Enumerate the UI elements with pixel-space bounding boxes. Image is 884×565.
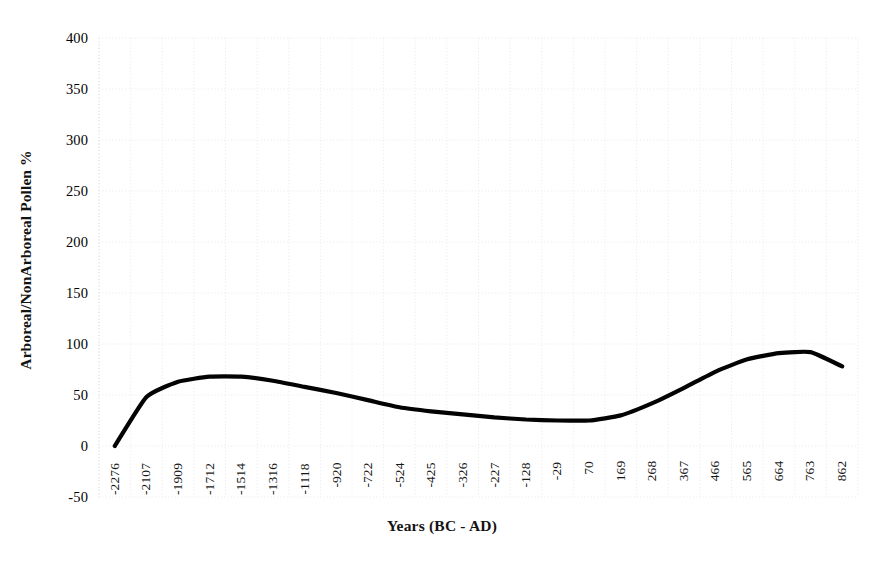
x-tick-label: -227 xyxy=(486,452,502,508)
x-tick-label-text: -425 xyxy=(423,463,439,488)
x-tick-label-text: -1118 xyxy=(297,464,313,495)
x-tick-label-text: -920 xyxy=(328,463,344,488)
x-tick-label-text: 565 xyxy=(739,461,755,482)
x-tick-label: -1316 xyxy=(265,452,281,508)
x-tick-label-text: 664 xyxy=(771,461,787,482)
x-tick-label-text: -1514 xyxy=(233,463,249,495)
x-tick-label: 466 xyxy=(708,452,724,508)
y-tick-label: 300 xyxy=(66,132,88,149)
y-tick-label: 250 xyxy=(66,183,88,200)
x-tick-label: -1712 xyxy=(202,452,218,508)
y-tick-label: 400 xyxy=(66,30,88,47)
x-tick-label: 664 xyxy=(771,452,787,508)
x-tick-label: 70 xyxy=(581,452,597,508)
x-tick-label: -524 xyxy=(391,452,407,508)
y-tick-label: 100 xyxy=(66,336,88,353)
x-tick-label-text: -128 xyxy=(518,463,534,488)
x-tick-label: 169 xyxy=(613,452,629,508)
x-tick-label-text: -722 xyxy=(360,463,376,488)
x-tick-label-text: 169 xyxy=(613,461,629,482)
x-tick-label: -2107 xyxy=(138,452,154,508)
y-tick-label: 50 xyxy=(73,387,88,404)
x-tick-label: -1118 xyxy=(297,452,313,508)
x-tick-label-text: -1316 xyxy=(265,463,281,495)
x-tick-label: 565 xyxy=(739,452,755,508)
x-tick-label-text: -1909 xyxy=(170,463,186,495)
y-tick-label: 150 xyxy=(66,285,88,302)
x-tick-label-text: -524 xyxy=(391,463,407,488)
x-axis-tick-labels: -2276-2107-1909-1712-1514-1316-1118-920-… xyxy=(0,452,884,512)
x-tick-label: -29 xyxy=(550,452,566,508)
chart-figure: Arboreal/NonArboreal Pollen % 4003503002… xyxy=(0,0,884,565)
x-tick-label-text: 763 xyxy=(803,461,819,482)
series-path-0 xyxy=(115,352,842,446)
x-tick-label: -2276 xyxy=(107,452,123,508)
x-tick-label-text: -326 xyxy=(455,463,471,488)
x-tick-label: 367 xyxy=(676,452,692,508)
x-tick-label: -425 xyxy=(423,452,439,508)
x-tick-label-text: -2276 xyxy=(107,463,123,495)
x-tick-label: -1514 xyxy=(233,452,249,508)
x-tick-label: 862 xyxy=(834,452,850,508)
x-tick-label: -326 xyxy=(455,452,471,508)
x-tick-label-text: 862 xyxy=(834,461,850,482)
x-tick-label: 763 xyxy=(803,452,819,508)
x-tick-label-text: 466 xyxy=(708,461,724,482)
x-axis-title: Years (BC - AD) xyxy=(0,517,884,535)
x-tick-label-text: 70 xyxy=(581,461,597,475)
x-tick-label-text: -1712 xyxy=(202,463,218,495)
x-tick-label-text: -227 xyxy=(486,463,502,488)
y-tick-label: 200 xyxy=(66,234,88,251)
x-tick-label: 268 xyxy=(644,452,660,508)
x-tick-label: -722 xyxy=(360,452,376,508)
x-tick-label-text: -2107 xyxy=(138,463,154,495)
x-tick-label-text: 268 xyxy=(644,461,660,482)
x-tick-label: -920 xyxy=(328,452,344,508)
x-tick-label-text: 367 xyxy=(676,461,692,482)
data-series-line xyxy=(99,38,858,497)
x-tick-label: -1909 xyxy=(170,452,186,508)
x-tick-label-text: -29 xyxy=(550,462,566,480)
y-tick-label: 350 xyxy=(66,81,88,98)
x-tick-label: -128 xyxy=(518,452,534,508)
plot-area xyxy=(99,38,858,497)
